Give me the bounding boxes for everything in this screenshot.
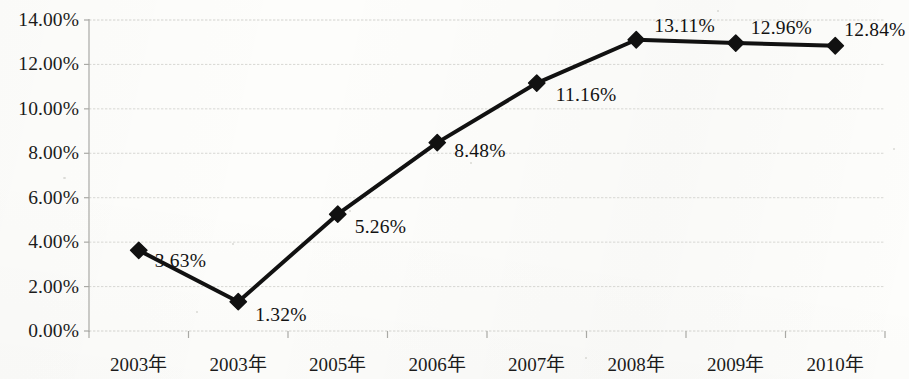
y-axis-tick-label: 0.00%	[0, 320, 79, 342]
y-axis-tick-label: 2.00%	[0, 276, 79, 298]
x-axis-tick-label-2: 2005年	[309, 349, 367, 376]
data-point-marker[interactable]	[827, 38, 843, 54]
y-axis-tick-label: 10.00%	[0, 98, 79, 120]
data-point-marker[interactable]	[628, 32, 644, 48]
x-axis-tick-label-7: 2010年	[807, 349, 865, 376]
y-axis-tick-label: 4.00%	[0, 231, 79, 253]
line-chart: 0.00%2.00%4.00%6.00%8.00%10.00%12.00%14.…	[0, 0, 909, 379]
x-axis-tick-label-3: 2006年	[409, 349, 467, 376]
data-point-label-0: 3.63%	[155, 250, 206, 272]
data-point-marker[interactable]	[728, 35, 744, 51]
data-point-label-2: 5.26%	[355, 216, 406, 238]
series-line-0	[139, 40, 836, 302]
y-axis-tick-label: 14.00%	[0, 9, 79, 31]
y-axis-tick-label: 12.00%	[0, 53, 79, 75]
data-point-marker[interactable]	[131, 242, 147, 258]
plot-area-svg	[0, 0, 909, 379]
x-axis-tick-label-6: 2009年	[707, 349, 765, 376]
data-point-label-5: 13.11%	[654, 15, 715, 37]
x-axis-tick-label-1: 2003年	[210, 349, 268, 376]
y-axis-tick-label: 8.00%	[0, 142, 79, 164]
data-point-label-6: 12.96%	[751, 17, 812, 39]
data-point-label-1: 1.32%	[255, 304, 306, 326]
x-axis-tick-label-0: 2003年	[110, 349, 168, 376]
x-axis-tick-label-5: 2008年	[608, 349, 666, 376]
data-point-label-7: 12.84%	[844, 19, 905, 41]
data-point-label-3: 8.48%	[454, 140, 505, 162]
x-axis-tick-label-4: 2007年	[508, 349, 566, 376]
data-point-label-4: 11.16%	[556, 84, 617, 106]
y-axis-tick-label: 6.00%	[0, 187, 79, 209]
